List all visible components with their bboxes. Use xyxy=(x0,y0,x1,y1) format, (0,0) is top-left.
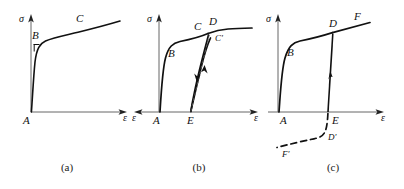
panel-c: σ ε A B D F E D' F' (c) xyxy=(266,0,400,189)
chart-c-svg: σ ε A B D F E D' F' xyxy=(266,0,404,175)
point-label-c-F: F xyxy=(353,10,361,22)
figure-container: σ ε A B C (a) xyxy=(0,0,404,189)
x-axis-label-c: ε xyxy=(381,112,385,123)
x-axis-a xyxy=(31,109,127,115)
point-label-c-D: D xyxy=(328,17,337,29)
x-axis-label-b: ε xyxy=(254,112,258,123)
panel-a: σ ε A B C (a) xyxy=(0,0,134,189)
y-axis-label-c: σ xyxy=(266,13,272,24)
point-label-a-A: A xyxy=(22,114,30,126)
point-label-b-A: A xyxy=(152,114,160,126)
curve-b-loading xyxy=(160,34,208,113)
curve-a-monotonic xyxy=(31,21,120,112)
point-label-b-B: B xyxy=(168,47,175,59)
chart-a-svg: σ ε A B C xyxy=(0,0,134,170)
point-label-a-B: B xyxy=(32,29,39,41)
point-label-c-Fprime: F' xyxy=(281,149,290,159)
x-axis-label-a: ε xyxy=(123,112,127,123)
curve-c-continuation-DF xyxy=(333,23,371,33)
caption-b: (b) xyxy=(132,161,266,173)
caption-c: (c) xyxy=(266,161,400,173)
chart-b-svg: σ ε ε A B C D C' E xyxy=(132,0,266,170)
curve-b-elastic-chord-dashed xyxy=(191,35,209,111)
panel-b: σ ε ε A B C D C' E (b) xyxy=(132,0,266,189)
caption-a: (a) xyxy=(0,161,134,173)
point-label-c-B: B xyxy=(287,46,294,58)
y-axis-label-b: σ xyxy=(147,13,153,24)
x-axis-label-b-left: ε xyxy=(132,112,136,123)
point-label-c-E: E xyxy=(331,114,339,126)
point-label-c-Dprime: D' xyxy=(327,132,337,142)
y-axis-label-a: σ xyxy=(19,13,25,24)
curve-c-loading xyxy=(279,33,333,112)
point-label-b-E: E xyxy=(186,114,194,126)
point-label-a-C: C xyxy=(76,12,84,24)
point-label-b-Cprime: C' xyxy=(215,33,224,43)
point-label-c-A: A xyxy=(279,114,287,126)
point-label-b-D: D xyxy=(208,15,217,27)
point-label-b-C: C xyxy=(194,20,202,32)
